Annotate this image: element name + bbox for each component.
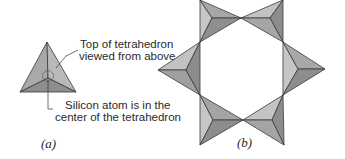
ring-tetrahedron-top-left [200, 0, 241, 42]
callout-bottom-line2: center of the tetrahedron [55, 111, 181, 123]
silicate-ring [158, 0, 325, 145]
callout-bottom-line1: Silicon atom is in the [65, 99, 170, 111]
ring-tetrahedron-top-right [241, 0, 283, 42]
ring-tetrahedron-right [283, 42, 325, 95]
caption-a: (a) [41, 136, 56, 151]
callout-top-line2: viewed from above [79, 50, 176, 62]
diagram-canvas: Top of tetrahedron viewed from above Sil… [0, 0, 345, 159]
silicate-diagram: Top of tetrahedron viewed from above Sil… [0, 0, 345, 159]
caption-b: (b) [237, 135, 252, 150]
callout-top-line1: Top of tetrahedron [80, 38, 173, 50]
